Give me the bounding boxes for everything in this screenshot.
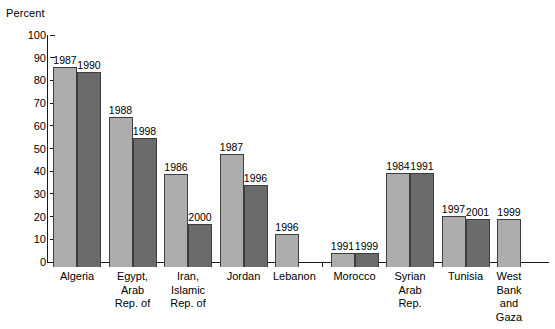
bar-value-label: 1998 [133, 125, 156, 137]
y-axis-tick: 30 [3, 188, 55, 200]
category-label: Egypt, Arab Rep. of [107, 270, 159, 311]
plot-area: 1009080706050403020100 19871990198819981… [47, 30, 549, 267]
category-label: Jordan [218, 270, 270, 284]
bar-value-label: 1999 [355, 240, 378, 252]
bar[interactable]: 1998 [133, 138, 157, 267]
bar-chart: Percent 1009080706050403020100 198719901… [0, 0, 555, 329]
bar-value-label: 1990 [77, 59, 100, 71]
bar[interactable]: 1986 [164, 174, 188, 267]
y-axis-tick-label: 80 [34, 74, 46, 86]
bar-value-label: 1984 [386, 160, 409, 172]
y-axis-tick: 90 [3, 52, 55, 64]
bar[interactable]: 2000 [188, 224, 212, 267]
y-axis-tick: 50 [3, 143, 55, 155]
y-axis-tick-label: 60 [34, 120, 46, 132]
bar[interactable]: 2001 [466, 219, 490, 267]
bar-group-bars: 19972001 [442, 35, 490, 267]
bar[interactable]: 1991 [410, 173, 434, 267]
y-axis-tick-label: 50 [34, 143, 46, 155]
bar[interactable]: 1987 [53, 67, 77, 267]
bar[interactable]: 1996 [244, 185, 268, 267]
bar-value-label: 2000 [188, 211, 211, 223]
y-axis-tick: 70 [3, 97, 55, 109]
y-axis-tick: 40 [3, 165, 55, 177]
bar-value-label: 1996 [244, 172, 267, 184]
bar-value-label: 1996 [275, 221, 298, 233]
category-label: Tunisia [440, 270, 492, 284]
bar-value-label: 1986 [164, 161, 187, 173]
bar-value-label: 1997 [442, 203, 465, 215]
y-axis-tick: 20 [3, 211, 55, 223]
bar-value-label: 1988 [109, 104, 132, 116]
y-axis-tick-label: 30 [34, 188, 46, 200]
bar-group-bars: 19881998 [109, 35, 157, 267]
bar-value-label: 1987 [53, 54, 76, 66]
y-axis-tick: 0 [3, 256, 55, 268]
category-label: Morocco [329, 270, 381, 284]
bar-value-label: 2001 [466, 206, 489, 218]
y-axis-tick-label: 20 [34, 211, 46, 223]
y-axis-tick: 80 [3, 74, 55, 86]
category-label: Lebanon [273, 270, 301, 284]
bar[interactable]: 1999 [497, 219, 521, 267]
bar-group-bars: 19841991 [386, 35, 434, 267]
y-axis-tick: 100 [3, 29, 55, 41]
bar-group-bars: 1996 [275, 35, 299, 267]
bar-value-label: 1991 [410, 160, 433, 172]
y-axis-tick-label: 90 [34, 52, 46, 64]
bar[interactable]: 1990 [77, 72, 101, 267]
bar[interactable]: 1996 [275, 234, 299, 267]
y-axis-tick-label: 40 [34, 165, 46, 177]
bar[interactable]: 1988 [109, 117, 133, 267]
y-axis-tick-label: 70 [34, 97, 46, 109]
bar[interactable]: 1991 [331, 253, 355, 267]
bar-group-bars: 19871990 [53, 35, 101, 267]
y-axis-tick-label: 100 [28, 29, 46, 41]
bar-group-bars: 1999 [497, 35, 521, 267]
bar[interactable]: 1999 [355, 253, 379, 267]
y-axis-title: Percent [6, 7, 45, 20]
bar-group-bars: 19911999 [331, 35, 379, 267]
bar-value-label: 1999 [497, 206, 520, 218]
y-axis-tick: 60 [3, 120, 55, 132]
category-label: Algeria [51, 270, 103, 284]
bar[interactable]: 1997 [442, 216, 466, 267]
y-axis-tick: 10 [3, 233, 55, 245]
bar-group-bars: 19871996 [220, 35, 268, 267]
category-label: Syrian Arab Rep. [384, 270, 436, 311]
bar[interactable]: 1987 [220, 154, 244, 268]
bar-value-label: 1987 [220, 141, 243, 153]
category-label: Iran, Islamic Rep. of [162, 270, 214, 311]
bar-value-label: 1991 [331, 240, 354, 252]
bar[interactable]: 1984 [386, 173, 410, 267]
y-axis-tick-label: 0 [40, 256, 46, 268]
bar-group-bars: 19862000 [164, 35, 212, 267]
y-axis-tick-label: 10 [34, 233, 46, 245]
category-label: West Bank and Gaza [495, 270, 523, 324]
x-axis-tick-mark [322, 263, 323, 267]
